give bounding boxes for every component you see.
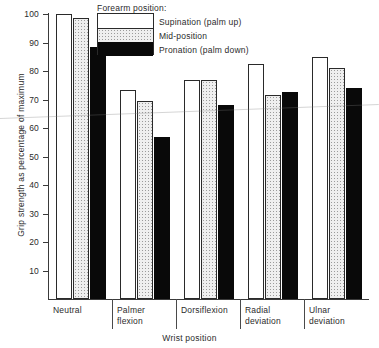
bar-pronation <box>346 88 362 299</box>
bar-mid <box>137 101 153 299</box>
category-label-line2: deviation <box>309 316 367 327</box>
legend-swatch-pronation <box>98 42 153 56</box>
bar-group <box>48 14 112 299</box>
category-separator <box>112 299 113 329</box>
category-label-line1: Dorsiflexion <box>181 305 239 316</box>
bar-mid <box>73 18 89 299</box>
category-label-line1: Palmer <box>117 305 175 316</box>
bar-group <box>304 14 368 299</box>
bar-group <box>240 14 304 299</box>
bar-pronation <box>282 92 298 299</box>
category-label-line1: Radial <box>245 305 303 316</box>
category-label: Palmerflexion <box>117 305 175 326</box>
bar-group <box>112 14 176 299</box>
bar-supination <box>56 14 72 299</box>
category-separator <box>176 299 177 329</box>
category-label-line2: deviation <box>245 316 303 327</box>
x-axis-title: Wrist position <box>0 333 379 343</box>
category-label-line1: Ulnar <box>309 305 367 316</box>
bar-supination <box>312 57 328 299</box>
bar-supination <box>184 80 200 299</box>
category-label: Radialdeviation <box>245 305 303 326</box>
bar-mid <box>265 95 281 299</box>
legend-label-pronation: Pronation (palm down) <box>159 45 249 55</box>
category-label: Dorsiflexion <box>181 305 239 316</box>
legend-label-mid-position: Mid-position <box>159 31 207 41</box>
bar-pronation <box>154 137 170 299</box>
category-label: Ulnardeviation <box>309 305 367 326</box>
legend-label-supination: Supination (palm up) <box>159 17 241 27</box>
bar-mid <box>329 68 345 299</box>
legend-swatch-box <box>97 13 154 55</box>
legend-title: Forearm position: <box>97 3 167 13</box>
grip-strength-bar-chart: 100908070605040302010 Grip strength as p… <box>0 0 379 348</box>
x-axis-line <box>48 299 369 300</box>
bar-mid <box>201 80 217 299</box>
bar-supination <box>248 64 264 299</box>
category-label: Neutral <box>53 305 111 316</box>
category-label-line1: Neutral <box>53 305 111 316</box>
category-separator <box>240 299 241 329</box>
bar-pronation <box>218 105 234 299</box>
plot-area <box>48 14 368 299</box>
bar-supination <box>120 90 136 299</box>
bar-pronation <box>90 47 106 299</box>
bar-group <box>176 14 240 299</box>
legend-swatch-supination <box>98 14 153 28</box>
y-axis-title: Grip strength as percentage of maximum <box>16 15 26 295</box>
category-label-line2: flexion <box>117 316 175 327</box>
category-separator <box>304 299 305 329</box>
